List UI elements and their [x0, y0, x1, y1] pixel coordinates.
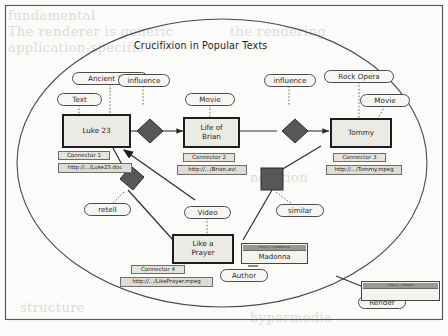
- capsule-label: Movie: [374, 97, 395, 104]
- connector-2-url[interactable]: http://.../Brian.avi: [177, 165, 247, 175]
- capsule-label: influence: [274, 77, 307, 84]
- connector-label-text: Connector 2: [192, 155, 226, 161]
- type-capsule-movie-tommy[interactable]: Movie: [360, 94, 410, 107]
- entity-tommy[interactable]: Tommy: [330, 118, 392, 148]
- madonna-window[interactable]: http://.../madonna Madonna: [241, 243, 308, 264]
- relation-capsule-similar[interactable]: similar: [276, 204, 324, 217]
- render-window[interactable]: http://.../render: [361, 281, 440, 301]
- entity-label: Luke 23: [82, 127, 110, 136]
- entity-label-line-2: Brian: [202, 133, 221, 142]
- capsule-label: Movie: [199, 96, 220, 103]
- entity-label-line-2: Prayer: [191, 249, 214, 258]
- connector-2-label[interactable]: Connector 2: [183, 153, 235, 162]
- capsule-label: retell: [98, 206, 116, 213]
- relation-capsule-influence-2[interactable]: influence: [264, 74, 316, 87]
- diagram-title: Crucifixion in Popular Texts: [134, 40, 267, 51]
- connector-1-label[interactable]: Connector 1: [58, 151, 110, 160]
- similar-square: [261, 168, 283, 190]
- influence-diamond-2: [282, 119, 308, 143]
- type-capsule-video[interactable]: Video: [184, 206, 231, 219]
- connector-1-url[interactable]: http://.../Luke23.doc: [58, 163, 132, 173]
- connector-label-text: Connector 3: [342, 155, 376, 161]
- relation-capsule-influence-1[interactable]: influence: [118, 74, 170, 87]
- connector-4-url[interactable]: http://.../LikePrayer.mpeg: [120, 277, 213, 287]
- influence-diamond-1: [137, 119, 163, 143]
- url-text: http://.../Tommy.mpeg: [334, 167, 393, 172]
- madonna-window-body: Madonna: [242, 251, 307, 263]
- connector-label-text: Connector 1: [67, 153, 101, 159]
- url-text: http://.../Luke23.doc: [68, 165, 122, 170]
- connector-3-url[interactable]: http://.../Tommy.mpeg: [326, 165, 402, 175]
- connector-4-label[interactable]: Connector 4: [131, 265, 185, 274]
- entity-life-of-brian[interactable]: Life of Brian: [183, 117, 240, 148]
- capsule-label: similar: [288, 207, 312, 214]
- capsule-label: Author: [232, 272, 256, 279]
- entity-luke23[interactable]: Luke 23: [62, 114, 131, 148]
- render-window-body: [362, 289, 439, 300]
- connector-label-text: Connector 4: [141, 267, 175, 273]
- type-capsule-movie-brian[interactable]: Movie: [185, 93, 235, 106]
- url-text: http://.../Brian.avi: [188, 167, 235, 172]
- relation-capsule-retell[interactable]: retell: [84, 203, 131, 216]
- capsule-label: Text: [72, 96, 87, 103]
- url-text: http://.../LikePrayer.mpeg: [132, 279, 200, 284]
- diagram-canvas: fundamental The renderer is generic appl…: [0, 0, 448, 336]
- entity-like-a-prayer[interactable]: Like a Prayer: [172, 234, 234, 264]
- connector-3-label[interactable]: Connector 3: [333, 153, 386, 162]
- capsule-label: influence: [128, 77, 161, 84]
- relation-capsule-author[interactable]: Author: [220, 269, 268, 282]
- type-capsule-text[interactable]: Text: [57, 93, 102, 106]
- capsule-label: Rock Opera: [338, 73, 379, 80]
- entity-label: Tommy: [348, 129, 374, 138]
- type-capsule-rock-opera[interactable]: Rock Opera: [324, 70, 394, 83]
- capsule-label: Video: [197, 209, 217, 216]
